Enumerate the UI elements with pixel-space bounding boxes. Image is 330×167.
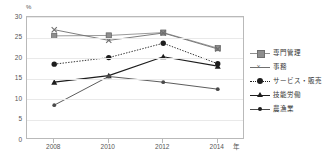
y-axis-tick-label: 5 (0, 115, 22, 122)
legend-marker-x-icon: × (257, 64, 263, 70)
y-axis-tick-label: 0 (0, 136, 22, 143)
data-point-marker (52, 61, 57, 66)
series-line (54, 30, 218, 49)
y-axis-tick-label: 30 (0, 13, 22, 20)
legend-sample (250, 47, 270, 59)
data-point-marker (161, 80, 165, 84)
x-axis-tick-mark (162, 139, 163, 143)
legend-label: サービス・販売 (273, 77, 322, 85)
data-point-marker (216, 87, 220, 91)
legend-sample (250, 89, 270, 101)
gridline (27, 38, 243, 39)
data-point-marker (161, 41, 166, 46)
series-0 (52, 30, 221, 51)
plot-area (26, 16, 244, 139)
x-axis-tick-label: 2014 (197, 143, 237, 151)
legend-sample (250, 103, 270, 115)
y-axis-tick-label: 10 (0, 95, 22, 102)
x-axis-tick-label: 2012 (142, 143, 182, 151)
legend-item-0[interactable]: 専門管理 (250, 46, 330, 60)
legend-label: 農漁業 (273, 105, 294, 113)
series-1 (52, 27, 221, 51)
y-axis-tick-label: 20 (0, 54, 22, 61)
legend-item-1[interactable]: ×事務 (250, 60, 330, 74)
x-axis-tick-label: 2008 (33, 143, 73, 151)
legend-marker-circle-small-icon (258, 107, 262, 111)
legend: 専門管理×事務サービス・販売技能労働農漁業 (250, 46, 330, 116)
series-line (54, 76, 218, 105)
legend-item-3[interactable]: 技能労働 (250, 88, 330, 102)
legend-sample: × (250, 61, 270, 73)
legend-item-2[interactable]: サービス・販売 (250, 74, 330, 88)
legend-item-4[interactable]: 農漁業 (250, 102, 330, 116)
x-axis-tick-mark (53, 139, 54, 143)
legend-sample (250, 75, 270, 87)
series-2 (52, 41, 221, 67)
x-axis-unit-label: 年 (233, 143, 240, 151)
legend-marker-triangle-icon (257, 92, 263, 97)
line-chart: % 051015202530 2008201020122014 年 専門管理×事… (0, 0, 330, 167)
gridline (27, 99, 243, 100)
series-line (54, 43, 218, 64)
legend-marker-circle-icon (257, 78, 263, 84)
legend-label: 技能労働 (273, 91, 301, 99)
legend-label: 専門管理 (273, 49, 301, 57)
y-axis-tick-label: 25 (0, 33, 22, 40)
data-point-marker (52, 103, 56, 107)
x-axis-tick-label: 2010 (88, 143, 128, 151)
gridline (27, 17, 243, 18)
gridline (27, 120, 243, 121)
x-axis-tick-mark (217, 139, 218, 143)
gridline (27, 79, 243, 80)
y-axis-unit-label: % (26, 4, 31, 11)
y-axis-tick-label: 15 (0, 74, 22, 81)
legend-marker-square-icon (257, 50, 265, 58)
x-axis-tick-mark (108, 139, 109, 143)
legend-label: 事務 (273, 63, 287, 71)
gridline (27, 58, 243, 59)
